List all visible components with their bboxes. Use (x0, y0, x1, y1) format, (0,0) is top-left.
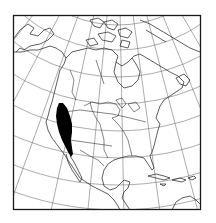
range-map (0, 0, 216, 223)
